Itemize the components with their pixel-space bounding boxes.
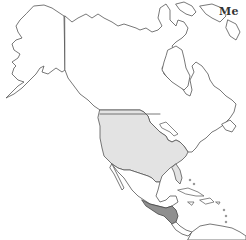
bahamas-island <box>189 179 191 181</box>
lesser-antilles-island <box>225 221 227 223</box>
south-america-region <box>188 224 246 240</box>
lower-central-america <box>172 222 192 236</box>
lesser-antilles-island <box>223 209 225 211</box>
puerto-rico-island <box>216 202 220 204</box>
arctic-island <box>226 20 240 40</box>
bahamas-island <box>193 183 195 185</box>
hispaniola-island <box>200 198 214 204</box>
cuba-island <box>178 188 204 196</box>
alaska-region <box>6 5 65 98</box>
jamaica-island <box>188 202 194 205</box>
arctic-island <box>176 2 196 16</box>
lesser-antilles-island <box>225 215 227 217</box>
florida-region <box>172 164 182 184</box>
map-title-fragment: Me <box>219 5 239 18</box>
north-america-map <box>0 0 246 240</box>
